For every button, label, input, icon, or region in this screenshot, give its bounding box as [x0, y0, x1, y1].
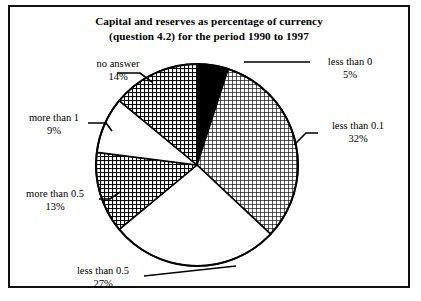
pie-label-less-than-0: less than 0 5%: [305, 56, 395, 81]
pie-label-no-answer: no answer 14%: [76, 58, 160, 83]
pie-label-more-than-1-name: more than 1: [29, 112, 79, 123]
pie-label-no-answer-pct: 14%: [76, 71, 160, 84]
pie-label-less-than-0-pct: 5%: [305, 69, 395, 82]
pie-label-no-answer-name: no answer: [97, 58, 140, 69]
pie-label-more-than-0-5-pct: 13%: [12, 201, 98, 214]
chart-page: Capital and reserves as percentage of cu…: [0, 0, 421, 301]
pie-label-less-than-0-5: less than 0.5 27%: [60, 265, 146, 290]
pie-label-less-than-0-5-pct: 27%: [60, 278, 146, 291]
pie-label-less-than-0-1-pct: 32%: [314, 133, 402, 146]
pie-label-less-than-0-5-name: less than 0.5: [77, 265, 129, 276]
pie-slices: [96, 64, 298, 266]
pie-label-more-than-1: more than 1 9%: [14, 112, 94, 137]
pie-label-less-than-0-name: less than 0: [328, 56, 372, 67]
pie-label-less-than-0-1-name: less than 0.1: [332, 120, 384, 131]
pie-chart: [0, 0, 421, 301]
pie-label-more-than-0-5: more than 0.5 13%: [12, 188, 98, 213]
pie-label-more-than-1-pct: 9%: [14, 125, 94, 138]
pie-label-more-than-0-5-name: more than 0.5: [26, 188, 84, 199]
leader-line-less-than-0-5: [144, 266, 236, 276]
pie-label-less-than-0-1: less than 0.1 32%: [314, 120, 402, 145]
